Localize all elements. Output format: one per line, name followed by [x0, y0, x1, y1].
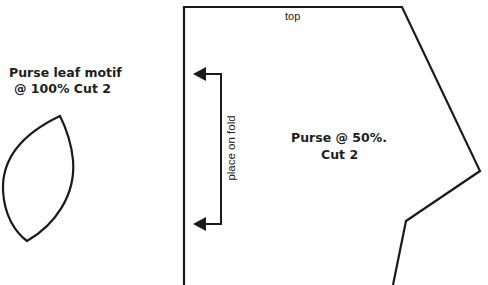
top-edge-label: top	[285, 10, 300, 22]
leaf-motif-title: Purse leaf motif	[9, 65, 122, 81]
pattern-canvas	[0, 0, 488, 285]
purse-cut-instructions: Cut 2	[321, 147, 358, 163]
leaf-motif-instructions: @ 100% Cut 2	[14, 81, 111, 97]
purse-title: Purse @ 50%.	[291, 130, 387, 146]
fold-arrow-icon	[193, 67, 221, 231]
place-on-fold-label: place on fold	[225, 115, 237, 180]
leaf-motif-outline	[3, 116, 73, 241]
